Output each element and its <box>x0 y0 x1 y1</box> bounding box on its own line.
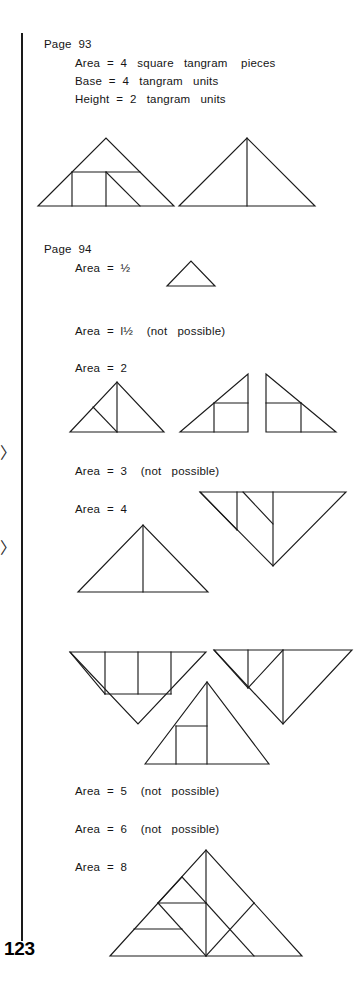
figure-p93-plain-triangle <box>177 136 317 208</box>
label-area-2: Area = 2 <box>75 362 127 374</box>
figure-p93-subdivided-triangle <box>36 136 176 208</box>
page93-area-line: Area = 4 square tangram pieces <box>75 57 276 69</box>
page93-height-line: Height = 2 tangram units <box>75 93 226 105</box>
left-margin-rule <box>21 33 23 941</box>
figure-area-half <box>165 258 217 288</box>
figure-area-4-b <box>198 490 348 568</box>
figure-area-4-e <box>143 678 273 766</box>
label-area-5: Area = 5 (not possible) <box>75 785 219 797</box>
page93-heading: Page 93 <box>44 38 92 50</box>
figure-area-8 <box>108 846 304 958</box>
label-area-one-and-half: Area = l½ (not possible) <box>75 325 225 337</box>
figure-area-4-a <box>76 522 210 594</box>
figure-area-2-b <box>178 372 250 434</box>
page-number: 123 <box>4 938 35 960</box>
answer-key-page: 〉 〉 Page 93 Area = 4 square tangram piec… <box>0 0 358 996</box>
figure-area-2-a <box>68 378 166 434</box>
label-area-3: Area = 3 (not possible) <box>75 465 219 477</box>
label-area-6: Area = 6 (not possible) <box>75 823 219 835</box>
label-area-half: Area = ½ <box>75 262 130 274</box>
edge-arrow-lower-icon: 〉 <box>0 540 16 556</box>
page93-base-line: Base = 4 tangram units <box>75 75 218 87</box>
page94-heading: Page 94 <box>44 243 92 255</box>
edge-arrow-upper-icon: 〉 <box>0 445 16 461</box>
figure-area-2-c <box>262 372 338 434</box>
label-area-4: Area = 4 <box>75 503 127 515</box>
